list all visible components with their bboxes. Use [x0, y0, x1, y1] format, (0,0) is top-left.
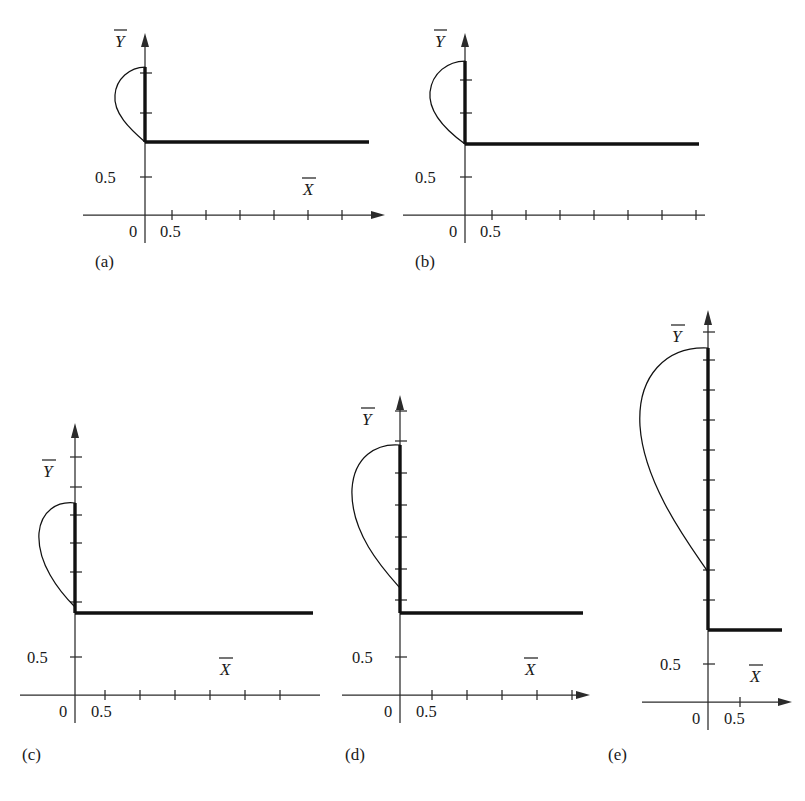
panel-e-y-axis-label: Y [672, 327, 683, 346]
panel-a-caption: (a) [95, 252, 114, 272]
panel-a-x-tick-label-half: 0.5 [160, 222, 181, 241]
panel-d-y-axis-label: Y [362, 410, 373, 429]
panel-a-x-axis-arrow [371, 211, 385, 219]
panel-c-y-axis-label: Y [43, 462, 54, 481]
panel-b-y-axis-arrow [461, 33, 469, 47]
panel-b-orbit-loop [430, 61, 465, 144]
panel-e-orbit-loop [640, 348, 708, 572]
panel-c-x-tick-label-half: 0.5 [91, 702, 112, 721]
panel-b-caption: (b) [415, 252, 435, 272]
panel-d-caption: (d) [345, 745, 365, 765]
panel-c-orbit-loop [39, 503, 75, 607]
panel-c-y-tick-label-half: 0.5 [27, 648, 48, 667]
panel-a: Y X 0.5 0 0.5 [75, 25, 395, 255]
panel-a-y-tick-label-half: 0.5 [95, 168, 116, 187]
panel-e-x-axis-label: X [749, 667, 761, 686]
panel-b-x-tick-label-half: 0.5 [480, 222, 501, 241]
panel-d-y-axis-arrow [396, 395, 404, 410]
panel-d-x-axis-label: X [524, 660, 536, 679]
panel-c-x-axis-label: X [219, 660, 231, 679]
panel-e-y-tick-label-half: 0.5 [660, 655, 681, 674]
panel-d-x-axis-arrow [576, 691, 590, 699]
panel-d: Y X 0.5 0 0.5 [340, 385, 630, 735]
panel-c: Y X 0.5 0 0.5 [15, 405, 335, 735]
panel-c-y-axis-arrow [71, 423, 79, 438]
panel-d-x-tick-label-half: 0.5 [416, 702, 437, 721]
panel-e-x-tick-label-zero: 0 [692, 709, 700, 728]
panel-a-x-tick-label-zero: 0 [129, 222, 137, 241]
panel-b-y-tick-label-half: 0.5 [415, 168, 436, 187]
panel-e-x-axis-arrow [778, 698, 792, 706]
panel-a-y-axis-label: Y [115, 32, 126, 51]
panel-c-x-tick-label-zero: 0 [59, 702, 67, 721]
panel-e-y-axis-arrow [704, 310, 712, 325]
panel-c-caption: (c) [22, 745, 41, 765]
panel-a-y-axis-arrow [141, 33, 149, 47]
panel-d-x-tick-label-zero: 0 [384, 702, 392, 721]
panel-b: Y 0.5 0 0.5 [395, 25, 715, 255]
panel-e: Y X 0.5 0 0.5 [600, 300, 805, 740]
panel-e-caption: (e) [608, 745, 627, 765]
panel-e-x-tick-label-half: 0.5 [724, 709, 745, 728]
panel-b-y-axis-label: Y [435, 32, 446, 51]
panel-d-y-tick-label-half: 0.5 [352, 648, 373, 667]
panel-b-x-tick-label-zero: 0 [449, 222, 457, 241]
panel-d-orbit-loop [352, 445, 400, 588]
panel-a-x-axis-label: X [302, 180, 314, 199]
panel-a-orbit-loop [115, 67, 145, 142]
figure-canvas: Y X 0.5 0 0.5 (a) [0, 0, 805, 801]
